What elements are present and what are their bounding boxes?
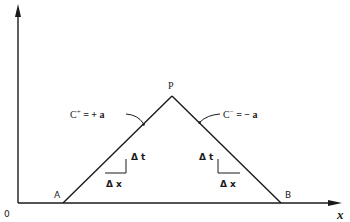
x-axis-arrow-icon: [328, 200, 342, 206]
left-delta-x: Δ x: [106, 179, 122, 189]
c-minus-leader: [200, 114, 220, 122]
x-axis-label: x: [336, 207, 344, 222]
svg-text:C+ = + a: C+ = + a: [70, 108, 105, 120]
point-p-label: P: [168, 80, 174, 91]
c-plus-rest: = + a: [81, 109, 105, 120]
c-minus-leader-dot: [198, 121, 201, 124]
svg-text:C− = − a: C− = − a: [223, 108, 258, 120]
c-minus-label: C− = − a: [198, 108, 257, 124]
right-slope-legs: [218, 159, 240, 173]
t-axis: [15, 4, 21, 203]
characteristics-diagram: x 0 A B P C+ = + a C− = − a Δ t Δ x Δ t …: [0, 0, 350, 222]
c-plus-leader: [126, 114, 143, 123]
left-slope-triangle: Δ t Δ x: [105, 152, 146, 189]
point-b-label: B: [285, 190, 291, 200]
point-a-label: A: [54, 190, 61, 200]
c-minus-rest: = − a: [234, 109, 258, 120]
x-axis: x: [18, 200, 344, 222]
c-plus-label: C+ = + a: [70, 108, 145, 126]
right-delta-x: Δ x: [220, 179, 236, 189]
c-plus-leader-dot: [142, 123, 145, 126]
left-slope-legs: [105, 159, 126, 173]
left-delta-t: Δ t: [131, 152, 146, 162]
right-delta-t: Δ t: [199, 152, 214, 162]
t-axis-arrow-icon: [15, 4, 21, 17]
origin-label: 0: [4, 209, 10, 219]
